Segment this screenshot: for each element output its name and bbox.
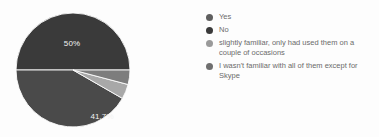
legend-item[interactable]: No bbox=[206, 25, 376, 35]
legend-item[interactable]: slightly familiar, only had used them on… bbox=[206, 38, 376, 58]
pie-slice-value-label: 41.7% bbox=[90, 112, 113, 121]
legend-item-label: I wasn't familiar with all of them excep… bbox=[219, 61, 371, 81]
pie-slice-value-label: 50% bbox=[64, 39, 80, 48]
legend-swatch-circle-icon bbox=[206, 14, 213, 21]
legend-item[interactable]: Yes bbox=[206, 12, 376, 22]
legend-swatch-circle-icon bbox=[206, 27, 213, 34]
legend-swatch-circle-icon bbox=[206, 63, 213, 70]
pie-chart-figure: 50%41.7% YesNoslightly familiar, only ha… bbox=[0, 0, 379, 137]
legend-item-label: Yes bbox=[219, 12, 231, 22]
legend-item-label: No bbox=[219, 25, 229, 35]
chart-legend: YesNoslightly familiar, only had used th… bbox=[206, 12, 376, 84]
legend-item[interactable]: I wasn't familiar with all of them excep… bbox=[206, 61, 376, 81]
legend-item-label: slightly familiar, only had used them on… bbox=[219, 38, 371, 58]
pie-plot-area: 50%41.7% bbox=[0, 0, 190, 137]
legend-swatch-circle-icon bbox=[206, 40, 213, 47]
pie-svg: 50%41.7% bbox=[14, 7, 134, 129]
pie-slice-group bbox=[16, 13, 130, 127]
